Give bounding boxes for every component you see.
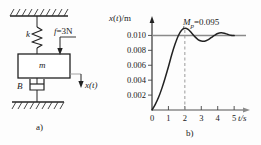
ground-hatch-icon <box>10 9 68 16</box>
x-tick-label: 0 <box>150 113 154 123</box>
displacement-label: x(t) <box>85 80 98 90</box>
ceiling-support <box>10 9 68 16</box>
spring-label: k <box>26 29 30 39</box>
mass-label: m <box>39 60 46 70</box>
panel-b-step-response-chart: 0.0020.0040.0060.0080.010 012345 x(t)/m … <box>118 0 261 145</box>
panel-a-caption: a) <box>36 122 43 132</box>
floor-support <box>12 102 64 109</box>
y-axis-arrow-icon <box>150 16 155 23</box>
spring-coil-icon <box>32 16 42 54</box>
x-tick-label: 1 <box>166 113 170 123</box>
mechanical-system-svg <box>0 0 122 145</box>
y-tick-label: 0.010 <box>127 30 146 40</box>
x-tick-label: 4 <box>216 113 221 123</box>
displacement-down-arrow-icon <box>70 74 84 88</box>
force-label: f=3N <box>54 26 73 36</box>
y-tick-label: 0.006 <box>127 60 146 70</box>
annotation-symbol: M <box>183 17 191 27</box>
panel-a-mechanical-diagram: k m B f=3N x(t) a) <box>0 0 122 145</box>
y-tick-group: 0.0020.0040.0060.0080.010 <box>127 30 152 100</box>
ground-hatch-icon <box>12 102 64 109</box>
y-tick-label: 0.004 <box>127 75 147 85</box>
x-tick-label: 2 <box>183 113 187 123</box>
figure-root: k m B f=3N x(t) a) 0.0020.0040.0060.0080… <box>0 0 261 145</box>
y-tick-label: 0.008 <box>127 45 146 55</box>
y-axis-title: x(t)/m <box>109 13 131 23</box>
y-axis <box>150 16 155 110</box>
peak-overshoot-annotation: Mp=0.095 <box>183 17 219 30</box>
x-tick-label: 5 <box>232 113 236 123</box>
x-axis-title: t/s <box>238 113 247 123</box>
force-arrow-down-arrow-icon <box>57 37 76 55</box>
annotation-value: =0.095 <box>194 17 219 27</box>
x-tick-group: 012345 <box>150 106 236 123</box>
x-tick-label: 3 <box>199 113 203 123</box>
panel-b-caption: b) <box>186 128 194 138</box>
dashpot-icon <box>30 78 44 102</box>
x-axis-arrow-icon <box>243 108 250 113</box>
response-curve <box>152 28 234 110</box>
y-tick-label: 0.002 <box>127 90 146 100</box>
damper-label: B <box>17 81 23 91</box>
